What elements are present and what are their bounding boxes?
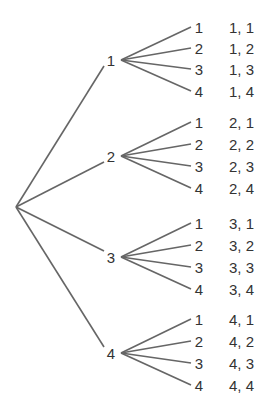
leaf-line xyxy=(121,341,191,353)
leaf-node-label: 2 xyxy=(195,41,203,56)
leaf-node-label: 1 xyxy=(195,216,203,231)
branch-line xyxy=(16,66,104,207)
outcome-label: 2, 4 xyxy=(229,181,254,196)
outcome-label: 1, 4 xyxy=(229,84,254,99)
branch-node-label: 1 xyxy=(107,53,115,68)
leaf-line xyxy=(121,122,191,156)
outcome-label: 4, 3 xyxy=(229,356,254,371)
outcome-label: 1, 3 xyxy=(229,62,254,77)
outcome-label: 3, 2 xyxy=(229,238,254,253)
leaf-line xyxy=(121,27,191,60)
leaf-node-label: 2 xyxy=(195,137,203,152)
branch-node-label: 3 xyxy=(107,250,115,265)
leaf-node-label: 3 xyxy=(195,356,203,371)
leaf-node-label: 3 xyxy=(195,159,203,174)
outcome-label: 2, 1 xyxy=(229,115,254,130)
outcome-label: 4, 2 xyxy=(229,334,254,349)
branch-node-label: 2 xyxy=(107,149,115,164)
leaf-node-label: 4 xyxy=(195,181,203,196)
leaf-line xyxy=(121,48,191,60)
outcome-label: 1, 1 xyxy=(229,20,254,35)
leaf-node-label: 4 xyxy=(195,378,203,393)
leaf-node-label: 4 xyxy=(195,282,203,297)
leaf-line xyxy=(121,223,191,257)
leaf-line xyxy=(121,319,191,353)
leaf-node-label: 3 xyxy=(195,260,203,275)
outcome-label: 2, 2 xyxy=(229,137,254,152)
leaf-node-label: 2 xyxy=(195,334,203,349)
leaf-node-label: 1 xyxy=(195,312,203,327)
outcome-label: 2, 3 xyxy=(229,159,254,174)
branch-line xyxy=(16,207,104,347)
leaf-node-label: 4 xyxy=(195,84,203,99)
leaf-node-label: 1 xyxy=(195,20,203,35)
leaf-line xyxy=(121,245,191,257)
outcome-label: 3, 3 xyxy=(229,260,254,275)
outcome-label: 4, 4 xyxy=(229,378,254,393)
leaf-node-label: 1 xyxy=(195,115,203,130)
outcome-label: 3, 1 xyxy=(229,216,254,231)
branch-node-label: 4 xyxy=(107,346,115,361)
leaf-node-label: 2 xyxy=(195,238,203,253)
outcome-label: 3, 4 xyxy=(229,282,254,297)
outcome-label: 1, 2 xyxy=(229,41,254,56)
leaf-node-label: 3 xyxy=(195,62,203,77)
leaf-line xyxy=(121,144,191,156)
outcome-label: 4, 1 xyxy=(229,312,254,327)
